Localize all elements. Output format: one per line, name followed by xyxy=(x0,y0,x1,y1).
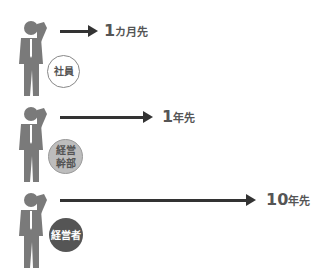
row-employee: 社員 1カ月先 xyxy=(0,18,328,103)
horizon-number: 1 xyxy=(104,21,115,40)
horizon-unit: 年先 xyxy=(288,195,310,208)
role-label-line2: 幹部 xyxy=(56,157,76,170)
horizon-label-1-month: 1カ月先 xyxy=(104,21,148,40)
arrow-medium xyxy=(60,116,145,119)
row-executive: 経営 幹部 1年先 xyxy=(0,103,328,188)
horizon-unit: カ月先 xyxy=(115,26,148,39)
horizon-label-10-years: 10年先 xyxy=(266,190,310,209)
role-badge-employee: 社員 xyxy=(47,55,80,88)
role-label: 社員 xyxy=(54,65,74,78)
role-badge-owner: 経営者 xyxy=(49,218,83,252)
horizon-number: 1 xyxy=(162,107,173,126)
arrow-long xyxy=(60,199,248,202)
horizon-number: 10 xyxy=(266,190,288,209)
row-owner: 経営者 10年先 xyxy=(0,188,328,273)
role-label: 経営者 xyxy=(51,229,81,242)
horizon-unit: 年先 xyxy=(173,112,195,125)
role-label-line1: 経営 xyxy=(56,144,76,157)
role-badge-executive: 経営 幹部 xyxy=(48,139,83,174)
arrow-short xyxy=(60,30,90,33)
horizon-label-1-year: 1年先 xyxy=(162,107,195,126)
